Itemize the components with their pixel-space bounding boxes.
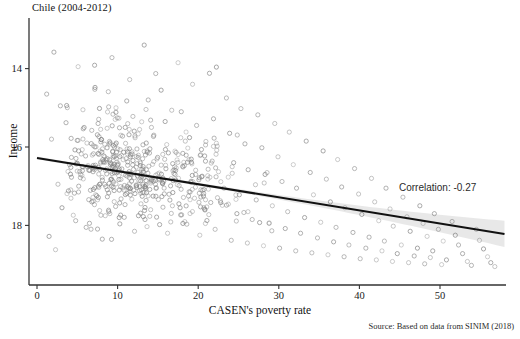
scatter-point [105, 146, 109, 150]
scatter-point [406, 261, 410, 265]
y-axis-title: Income [7, 111, 19, 171]
scatter-point [401, 195, 405, 199]
scatter-point [207, 213, 211, 217]
scatter-point [106, 90, 110, 94]
scatter-point [260, 146, 264, 150]
scatter-point [74, 219, 78, 223]
scatter-point [287, 130, 291, 134]
scatter-point [460, 252, 464, 256]
scatter-point [165, 142, 169, 146]
scatter-point [302, 215, 306, 219]
scatter-point [199, 147, 203, 151]
x-axis-tick-label: 20 [193, 290, 204, 301]
scatter-point [441, 239, 445, 243]
scatter-point [135, 147, 139, 151]
scatter-point [169, 220, 173, 224]
scatter-point [148, 214, 152, 218]
scatter-point [207, 71, 211, 75]
scatter-point [97, 117, 101, 121]
scatter-point [356, 192, 360, 196]
scatter-point [167, 192, 171, 196]
scatter-point [161, 152, 165, 156]
scatter-point [194, 123, 198, 127]
scatter-point [45, 92, 49, 96]
scatter-point [162, 186, 166, 190]
scatter-point [159, 163, 163, 167]
scatter-point [105, 110, 109, 114]
y-axis-tick-label: 18 [12, 220, 23, 231]
scatter-point [114, 106, 118, 110]
scatter-point [140, 120, 144, 124]
scatter-point [243, 142, 247, 146]
scatter-point [100, 175, 104, 179]
scatter-point [105, 126, 109, 130]
scatter-point [258, 220, 262, 224]
scatter-point [99, 127, 103, 131]
scatter-point [56, 182, 60, 186]
scatter-point [310, 251, 314, 255]
scatter-point [72, 191, 76, 195]
scatter-point [90, 128, 94, 132]
scatter-point [456, 243, 460, 247]
scatter-point [181, 195, 185, 199]
scatter-point [69, 196, 73, 200]
scatter-point [123, 125, 127, 129]
scatter-point [168, 198, 172, 202]
scatter-point [198, 233, 202, 237]
scatter-point [47, 234, 51, 238]
scatter-point [85, 141, 89, 145]
scatter-point [125, 99, 129, 103]
scatter-point [76, 190, 80, 194]
scatter-point [93, 63, 97, 67]
scatter-point [246, 168, 250, 172]
scatter-point [69, 155, 73, 159]
scatter-point [390, 259, 394, 263]
scatter-point [109, 237, 113, 241]
scatter-points-group [45, 43, 497, 269]
scatter-point [351, 230, 355, 234]
scatter-point [184, 153, 188, 157]
scatter-point [415, 246, 419, 250]
scatter-point [315, 236, 319, 240]
scatter-point [149, 208, 153, 212]
scatter-point [173, 172, 177, 176]
scatter-point [99, 213, 103, 217]
scatter-point [107, 105, 111, 109]
scatter-point [151, 194, 155, 198]
scatter-point [170, 204, 174, 208]
scatter-point [245, 241, 249, 245]
scatter-point [163, 119, 167, 123]
scatter-point [94, 193, 98, 197]
scatter-point [69, 136, 73, 140]
scatter-point [214, 175, 218, 179]
scatter-point [186, 146, 190, 150]
scatter-point [254, 198, 258, 202]
scatter-point [242, 210, 246, 214]
scatter-point [431, 249, 435, 253]
scatter-point [321, 149, 325, 153]
scatter-point [270, 204, 274, 208]
scatter-point [391, 224, 395, 228]
correlation-annotation: Correlation: -0.27 [399, 182, 476, 193]
scatter-point [97, 172, 101, 176]
scatter-point [119, 197, 123, 201]
scatter-point [319, 220, 323, 224]
scatter-point [283, 226, 287, 230]
scatter-point [412, 254, 416, 258]
axes-group [29, 18, 506, 285]
scatter-point [197, 200, 201, 204]
scatter-point [149, 118, 153, 122]
scatter-point [232, 161, 236, 165]
scatter-point [399, 243, 403, 247]
scatter-point [209, 200, 213, 204]
scatter-point [262, 181, 266, 185]
scatter-point [298, 231, 302, 235]
scatter-point [187, 136, 191, 140]
scatter-point [347, 243, 351, 247]
scatter-point [123, 203, 127, 207]
scatter-point [286, 210, 290, 214]
scatter-point [100, 237, 104, 241]
scatter-point [165, 231, 169, 235]
scatter-point [127, 133, 131, 137]
scatter-point [110, 124, 114, 128]
